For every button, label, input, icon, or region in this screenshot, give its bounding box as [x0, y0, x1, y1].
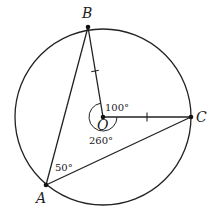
angle-label-100: 100° [105, 102, 129, 113]
label-o: O [97, 117, 109, 133]
label-b: B [81, 5, 92, 21]
radius-ob [88, 27, 103, 117]
label-a: A [34, 190, 46, 206]
circle-geometry-diagram: B C O A 100° 260° 50° [0, 0, 216, 218]
tick-mark-ob [91, 70, 99, 71]
point-b [86, 25, 91, 30]
angle-label-50: 50° [55, 162, 73, 173]
point-a [44, 183, 49, 188]
label-c: C [196, 109, 207, 125]
angle-label-260: 260° [89, 135, 113, 146]
point-c [189, 115, 194, 120]
